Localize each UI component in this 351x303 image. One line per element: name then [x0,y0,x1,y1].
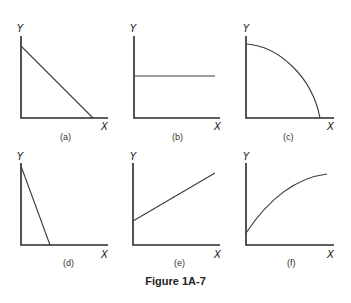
figure-caption: Figure 1A-7 [0,275,351,287]
x-axis-label: X [326,121,335,132]
axes [21,163,108,245]
panel-e: Y X (e) [130,151,222,268]
y-axis-label: Y [17,23,24,34]
panel-label: (c) [283,132,294,142]
panel-label: (a) [60,132,71,142]
y-axis-label: Y [130,151,137,162]
x-axis-label: X [326,249,335,260]
panel-label: (f) [287,258,296,268]
x-axis-label: X [213,249,222,260]
panel-label: (d) [63,258,74,268]
x-axis-label: X [213,121,222,132]
panel-a: Y X (a) [17,23,109,142]
x-axis-label: X [100,121,109,132]
x-axis-label: X [100,249,109,260]
y-axis-label: Y [243,151,250,162]
line-negative-slope [21,46,93,118]
line-steep-negative [21,166,50,245]
figure-canvas: Y X (a) Y X (b) Y X (c) Y X (d) Y X (e) [0,0,351,303]
curve-concave-decreasing [246,44,320,118]
axes [133,163,220,245]
y-axis-label: Y [17,151,24,162]
curve-concave-increasing [246,174,327,233]
panel-c: Y X (c) [243,23,335,142]
panel-d: Y X (d) [17,151,109,268]
line-positive-slope [133,173,215,221]
y-axis-label: Y [243,23,250,34]
axes [21,36,108,118]
axes [246,36,334,118]
panel-label: (e) [174,258,185,268]
panel-label: (b) [172,132,183,142]
y-axis-label: Y [130,23,137,34]
panel-f: Y X (f) [243,151,335,268]
panel-b: Y X (b) [130,23,222,142]
axes [134,36,220,118]
